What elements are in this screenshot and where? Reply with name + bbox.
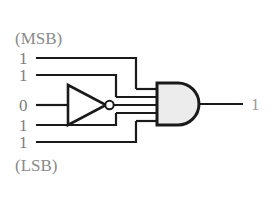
not-gate-bubble	[105, 101, 113, 109]
input-bit-4-value: 1	[19, 117, 28, 134]
and-gate-body	[157, 83, 199, 125]
input-bit-1-value: 1	[19, 50, 28, 67]
msb-label: (MSB)	[15, 30, 62, 47]
lsb-label: (LSB)	[15, 157, 58, 174]
input-bit-5-value: 1	[19, 134, 28, 151]
wire-input-1	[36, 58, 136, 89]
logic-circuit-diagram: (MSB) 1 1 0 1 1 (LSB) 1	[0, 0, 277, 205]
not-gate-triangle	[68, 85, 106, 125]
input-bit-2-value: 1	[19, 67, 28, 84]
output-value: 1	[251, 96, 260, 113]
input-bit-3-value: 0	[19, 97, 28, 114]
